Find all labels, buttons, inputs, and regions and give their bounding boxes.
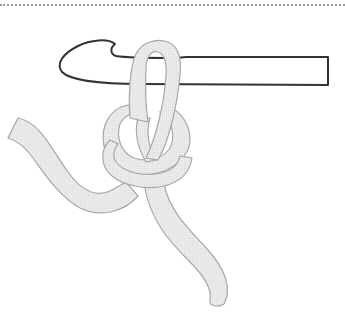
crochet-slip-knot-illustration <box>0 0 345 323</box>
yarn-tail-bottom <box>144 184 227 306</box>
crochet-hook <box>60 40 328 85</box>
